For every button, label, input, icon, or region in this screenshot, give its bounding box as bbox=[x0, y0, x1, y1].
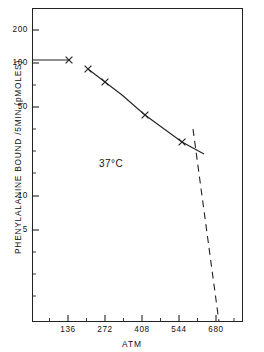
x-axis-title: ATM bbox=[0, 339, 264, 349]
x-tick-label-408: 408 bbox=[134, 326, 149, 334]
data-point-marker bbox=[179, 139, 186, 146]
x-tick-label-272: 272 bbox=[97, 326, 112, 334]
y-axis-title: PHENYLALANINE BOUND /5MIN (pMOLES) bbox=[13, 42, 23, 272]
annotation-temperature: 37°C bbox=[99, 158, 123, 169]
x-tick-label-680: 680 bbox=[208, 326, 223, 334]
x-axis-major-ticks bbox=[68, 315, 216, 322]
plot-vector-layer bbox=[0, 0, 264, 352]
x-tick-label-136: 136 bbox=[60, 326, 75, 334]
data-point-marker bbox=[102, 79, 109, 86]
data-point-marker bbox=[85, 66, 92, 73]
x-tick-label-544: 544 bbox=[171, 326, 186, 334]
x-axis-tick-labels: 136 272 408 544 680 bbox=[0, 326, 264, 340]
series-transition-asymptote-line bbox=[193, 129, 219, 322]
figure-chart-phenylalanine-vs-atm: 200 100 50 10 5 136 272 408 544 680 PHEN… bbox=[0, 0, 264, 352]
y-tick-label-200: 200 bbox=[13, 26, 28, 34]
y-axis-minor-ticks bbox=[32, 85, 36, 296]
y-tick-label-5: 5 bbox=[23, 226, 28, 234]
data-point-marker bbox=[142, 112, 149, 119]
